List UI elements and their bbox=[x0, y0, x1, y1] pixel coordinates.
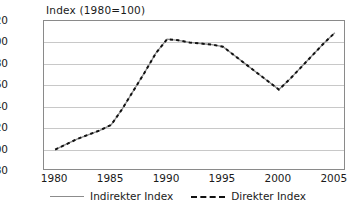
legend-label: Indirekter Index bbox=[90, 190, 173, 202]
legend-label: Direkter Index bbox=[231, 190, 306, 202]
y-axis-tick-label: 160 bbox=[0, 78, 8, 90]
plot-area bbox=[43, 20, 345, 170]
legend-item-direkter-index[interactable]: Direkter Index bbox=[191, 190, 306, 202]
series-line-direkter-index bbox=[55, 33, 335, 150]
y-axis-tick-label: 80 bbox=[0, 164, 8, 176]
legend-item-indirekter-index[interactable]: Indirekter Index bbox=[50, 190, 173, 202]
y-axis-tick-label: 100 bbox=[0, 143, 8, 155]
legend-line-solid-icon bbox=[50, 191, 84, 201]
x-axis-tick-label: 2000 bbox=[258, 172, 298, 184]
y-axis-tick-label: 120 bbox=[0, 121, 8, 133]
y-axis-tick-label: 140 bbox=[0, 100, 8, 112]
y-axis-tick-label: 200 bbox=[0, 35, 8, 47]
x-axis-tick-label: 1980 bbox=[34, 172, 74, 184]
legend-line-dashed-icon bbox=[191, 191, 225, 201]
y-axis-tick-label: 220 bbox=[0, 14, 8, 26]
x-axis-tick-label: 1995 bbox=[202, 172, 242, 184]
x-axis-tick-label: 1990 bbox=[146, 172, 186, 184]
chart-figure: Index (1980=100) 22020018016014012010080… bbox=[0, 0, 356, 216]
chart-title: Index (1980=100) bbox=[46, 4, 145, 16]
x-axis-tick-label: 2005 bbox=[314, 172, 354, 184]
series-layer bbox=[44, 21, 346, 171]
x-axis-tick-label: 1985 bbox=[90, 172, 130, 184]
y-axis-tick-label: 180 bbox=[0, 57, 8, 69]
chart-legend: Indirekter Index Direkter Index bbox=[0, 190, 356, 202]
